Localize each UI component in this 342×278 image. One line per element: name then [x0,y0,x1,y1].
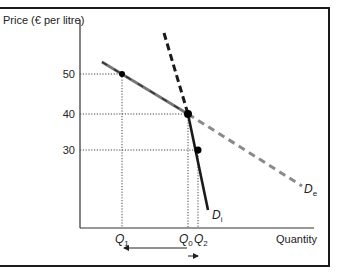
di-label: Di [212,209,222,224]
tick-30: 30 [45,145,75,156]
q0-label: Q0 [179,233,193,248]
point-q1-50 [119,71,125,77]
y-axis-label: Price (€ per litre) [3,15,84,26]
point-q0-40 [184,110,192,118]
tick-50: 50 [45,69,75,80]
q2-label: Q2 [194,233,208,248]
elastic-demand-line [188,114,302,186]
x-axis-label: Quantity [276,234,317,245]
de-label: De [304,183,317,198]
q1-label: Q1 [115,233,129,248]
tick-40: 40 [45,109,75,120]
point-q2-30 [195,147,202,154]
